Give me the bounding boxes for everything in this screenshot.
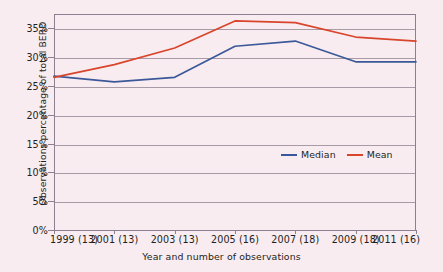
y-tick-mark xyxy=(48,201,54,202)
y-tick-label: 15% xyxy=(26,138,48,149)
x-tick-label: 2005 (16) xyxy=(211,234,259,245)
y-tick-mark xyxy=(48,57,54,58)
legend-item-mean: Mean xyxy=(347,149,393,160)
y-axis-tick-labels: 0%5%10%15%20%25%30%35% xyxy=(0,0,52,272)
y-tick-mark xyxy=(48,172,54,173)
series-line-median xyxy=(54,41,416,82)
legend-item-median: Median xyxy=(281,149,336,160)
y-tick-label: 10% xyxy=(26,167,48,178)
x-tick-label: 2007 (18) xyxy=(271,234,319,245)
y-tick-mark xyxy=(48,86,54,87)
series-lines xyxy=(54,14,416,230)
chart-legend: Median Mean xyxy=(281,149,393,160)
series-line-mean xyxy=(54,21,416,77)
y-tick-mark xyxy=(48,230,54,231)
y-tick-label: 20% xyxy=(26,109,48,120)
y-tick-label: 30% xyxy=(26,52,48,63)
y-tick-mark xyxy=(48,28,54,29)
x-tick-label: 2001 (13) xyxy=(90,234,138,245)
y-tick-label: 0% xyxy=(33,225,48,236)
y-tick-label: 25% xyxy=(26,81,48,92)
legend-label-median: Median xyxy=(301,149,336,160)
legend-swatch-median xyxy=(281,154,297,156)
y-tick-label: 35% xyxy=(26,23,48,34)
y-tick-mark xyxy=(48,115,54,116)
legend-label-mean: Mean xyxy=(367,149,393,160)
x-tick-label: 2011 (16) xyxy=(372,234,420,245)
y-tick-label: 5% xyxy=(33,196,48,207)
legend-swatch-mean xyxy=(347,154,363,156)
line-chart: Observations percentage of total BERD 0%… xyxy=(0,0,443,272)
y-tick-mark xyxy=(48,144,54,145)
x-tick-label: 2003 (13) xyxy=(151,234,199,245)
x-axis-title: Year and number of observations xyxy=(0,251,443,262)
